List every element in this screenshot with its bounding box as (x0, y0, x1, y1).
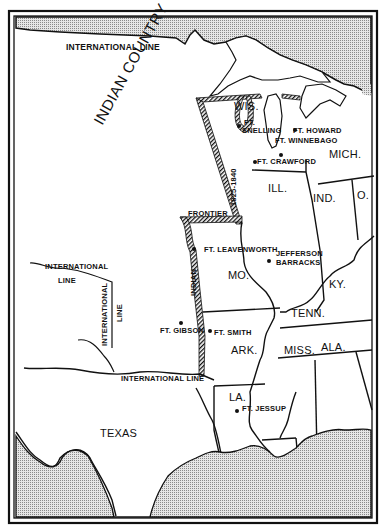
ft-leavenworth-label: FT. LEAVENWORTH (204, 246, 278, 254)
international-line-vertical-label-2: LINE (116, 304, 124, 322)
ft-smith-label: FT. SMITH (214, 329, 252, 337)
state-label-mo: MO. (228, 270, 249, 281)
international-line-south-label: INTERNATIONAL LINE (121, 375, 204, 383)
state-label-mich: MICH. (329, 149, 361, 160)
ft-leavenworth-marker (192, 247, 196, 251)
state-label-ala: ALA. (321, 342, 346, 353)
state-label-ark: ARK. (231, 345, 257, 356)
ft-smith-marker (208, 329, 212, 333)
state-label-la: LA. (229, 392, 246, 403)
state-label-miss: MISS. (284, 345, 315, 356)
international-line-west-label-1: INTERNATIONAL (45, 263, 108, 271)
state-label-ind: IND. (313, 193, 336, 204)
region-label-texas: TEXAS (100, 428, 137, 439)
east-water (362, 84, 371, 96)
indian-label: INDIAN (190, 269, 198, 296)
state-label-wis: WIS. (234, 101, 259, 112)
ft-gibson-label: FT. GIBSON (160, 327, 204, 335)
frontier-label: FRONTIER (188, 210, 228, 218)
ft-winnebago-label: FT. WINNEBAGO (275, 137, 338, 145)
international-line-west-label-2: LINE (58, 277, 76, 285)
ft-jessup-marker (235, 409, 239, 413)
ft-crawford-label: FT. CRAWFORD (257, 158, 316, 166)
ft-snelling-label-2: SNELLING (242, 127, 282, 135)
international-line-vertical-label-1: INTERNATIONAL (101, 283, 109, 346)
state-label-ill: ILL. (268, 183, 287, 194)
gulf-of-mexico (16, 429, 371, 517)
jefferson-barracks-label-2: BARRACKS (276, 259, 321, 267)
state-label-ky: KY. (329, 279, 346, 290)
ft-jessup-label: FT. JESSUP (242, 405, 286, 413)
ft-howard-label: FT. HOWARD (293, 127, 342, 135)
frontier-dates-label: 1825-1840 (230, 168, 238, 206)
ft-snelling-marker (237, 124, 241, 128)
jefferson-barracks-label-1: JEFFERSON (276, 250, 323, 258)
state-label-tenn: TENN. (291, 308, 325, 319)
jefferson-barracks-marker (267, 259, 271, 263)
ft-gibson-marker (179, 321, 183, 325)
state-label-ohio: O. (357, 190, 369, 201)
